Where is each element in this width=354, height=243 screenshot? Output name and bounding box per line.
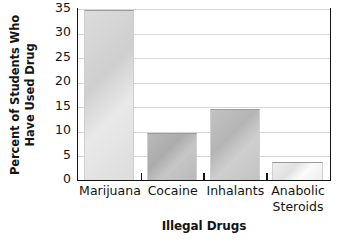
- y-tick-label: 25: [55, 51, 71, 63]
- y-tick-label: 20: [55, 75, 71, 87]
- y-tick-label: 35: [55, 2, 71, 14]
- bar: [84, 10, 134, 180]
- x-tick-label-line: Marijuana: [79, 183, 141, 198]
- bar: [147, 133, 197, 180]
- y-axis-title: Percent of Students Who Have Used Drug: [0, 0, 46, 190]
- y-tick-label: 0: [63, 173, 71, 185]
- bar-series: [78, 8, 330, 180]
- y-axis-tick-labels: 05101520253035: [46, 0, 74, 190]
- bar: [272, 162, 322, 180]
- y-tick-label: 10: [55, 124, 71, 136]
- x-tick-mark: [141, 173, 143, 180]
- x-tick-label: AnabolicSteroids: [259, 183, 337, 214]
- x-axis-title: Illegal Drugs: [77, 219, 331, 233]
- x-tick-label-line: Cocaine: [148, 183, 198, 198]
- bar: [210, 109, 260, 180]
- bar-chart-figure: Percent of Students Who Have Used Drug 0…: [0, 0, 354, 243]
- y-axis-title-line-1: Percent of Students Who: [8, 15, 23, 175]
- y-tick-label: 5: [63, 149, 71, 161]
- x-tick-mark: [266, 173, 268, 180]
- x-tick-label-line: Steroids: [259, 199, 337, 215]
- x-axis-tick-labels: MarijuanaCocaineInhalantsAnabolicSteroid…: [77, 183, 331, 217]
- y-tick-label: 15: [55, 100, 71, 112]
- x-tick-label-line: Anabolic: [271, 183, 325, 198]
- x-tick-label-line: Inhalants: [207, 183, 265, 198]
- y-axis-title-text: Percent of Students Who Have Used Drug: [8, 15, 38, 175]
- plot-area: [77, 8, 331, 181]
- y-tick-label: 30: [55, 26, 71, 38]
- y-axis-title-line-2: Have Used Drug: [23, 15, 38, 175]
- x-tick-mark: [203, 173, 205, 180]
